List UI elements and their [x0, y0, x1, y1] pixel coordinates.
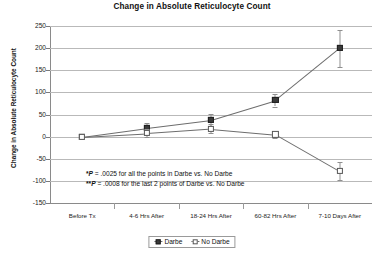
legend-item-darbe[interactable]: Darbe [154, 238, 182, 245]
x-tick-mark [179, 203, 180, 209]
data-point-marker[interactable] [272, 131, 278, 137]
x-tick-label: Before Tx [69, 212, 96, 219]
data-point-marker[interactable] [208, 117, 214, 123]
legend-item-no-darbe[interactable]: No Darbe [191, 238, 229, 245]
x-tick-mark [308, 203, 309, 209]
y-tick-label: -100 [33, 177, 46, 184]
reticulocyte-count-chart: Change in Absolute Reticulocyte Count Ch… [0, 0, 384, 253]
x-tick-label: 4-6 Hrs After [129, 212, 164, 219]
error-bar-cap [337, 30, 342, 31]
annotation-p-0008: **P = .0008 for the last 2 points of Dar… [86, 180, 245, 187]
error-bar-cap [337, 162, 342, 163]
x-tick-mark [114, 203, 115, 209]
data-point-marker[interactable] [337, 45, 343, 51]
legend-label-darbe: Darbe [164, 238, 182, 245]
chart-legend: Darbe No Darbe [148, 236, 235, 248]
error-bar-cap [209, 133, 214, 134]
data-point-marker[interactable] [337, 168, 343, 174]
legend-marker-open-square-icon [191, 241, 199, 242]
series-line-segment [147, 120, 212, 129]
x-tick-label: 18-24 Hrs After [190, 212, 232, 219]
y-tick-label: 50 [39, 111, 46, 118]
data-point-marker[interactable] [272, 97, 278, 103]
x-tick-mark [243, 203, 244, 209]
series-line-segment [211, 129, 276, 136]
data-point-marker[interactable] [79, 134, 85, 140]
y-axis-title: Change in Absolute Reticulocyte Count [10, 20, 17, 196]
data-point-marker[interactable] [144, 130, 150, 136]
y-tick-label: 200 [35, 44, 46, 51]
series-line-segment [275, 134, 340, 172]
legend-label-no-darbe: No Darbe [201, 238, 229, 245]
error-bar-cap [273, 107, 278, 108]
series-line-segment [211, 100, 276, 120]
y-tick-label: -50 [36, 155, 46, 162]
error-bar-cap [337, 180, 342, 181]
data-point-marker[interactable] [208, 126, 214, 132]
series-line-segment [275, 48, 340, 101]
error-bar-cap [337, 67, 342, 68]
series-line-segment [147, 129, 212, 134]
y-tick-label: -150 [33, 199, 46, 206]
error-bar-cap [273, 138, 278, 139]
error-bar-cap [273, 94, 278, 95]
y-tick-label: 150 [35, 66, 46, 73]
chart-title: Change in Absolute Reticulocyte Count [0, 2, 384, 11]
y-axis-title-container: Change in Absolute Reticulocyte Count [0, 20, 13, 200]
error-bar-cap [144, 137, 149, 138]
x-tick-label: 60-82 Hrs After [255, 212, 297, 219]
annotation-p-0025: *P = .0025 for all the points in Darbe v… [86, 170, 232, 177]
error-bar-cap [209, 114, 214, 115]
y-tick-label: 100 [35, 88, 46, 95]
y-axis-tick-labels: 250200150100500-50-100-150 [20, 26, 46, 203]
x-tick-label: 7-10 Days After [318, 212, 361, 219]
y-tick-label: 250 [35, 22, 46, 29]
legend-marker-filled-square-icon [154, 241, 162, 242]
